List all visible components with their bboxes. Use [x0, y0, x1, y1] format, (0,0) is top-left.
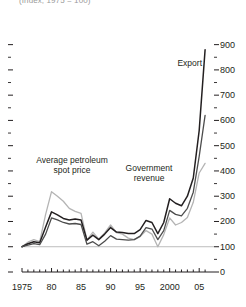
x-axis-tick-label: 2000	[160, 282, 180, 292]
annotation-line: spot price	[24, 165, 120, 175]
annotation-line: Average petroleum	[24, 155, 120, 165]
y-axis-tick-label: 200	[220, 216, 235, 226]
y-axis-tick-label: 0	[220, 267, 225, 277]
y-axis-tick-label: 300	[220, 191, 235, 201]
y-axis-tick-label: 700	[220, 90, 235, 100]
x-axis-tick-label: 95	[135, 282, 145, 292]
x-axis-tick-label: 80	[47, 282, 57, 292]
annotation-average-petroleum-spot-price: Average petroleumspot price	[24, 155, 120, 175]
y-axis-tick-label: 500	[220, 141, 235, 151]
x-axis-tick-label: 05	[194, 282, 204, 292]
annotation-export: Export	[160, 58, 202, 68]
annotation-line: revenue	[112, 173, 186, 183]
x-axis-tick-label: 90	[106, 282, 116, 292]
y-axis-tick-label: 600	[220, 115, 235, 125]
chart-plot-area	[0, 0, 246, 307]
y-axis-tick-label: 400	[220, 166, 235, 176]
series-line	[22, 50, 205, 247]
annotation-line: Export	[160, 58, 202, 68]
annotation-government-revenue: Governmentrevenue	[112, 163, 186, 183]
annotation-line: Government	[112, 163, 186, 173]
x-axis-tick-label: 1975	[12, 282, 32, 292]
chart-series-lines	[22, 50, 205, 247]
chart-container: (Index, 1975 = 100) 01002003004005006007…	[0, 0, 246, 307]
x-axis-tick-label: 85	[76, 282, 86, 292]
y-axis-tick-label: 900	[220, 40, 235, 50]
y-axis-tick-label: 800	[220, 65, 235, 75]
y-axis-tick-label: 100	[220, 242, 235, 252]
